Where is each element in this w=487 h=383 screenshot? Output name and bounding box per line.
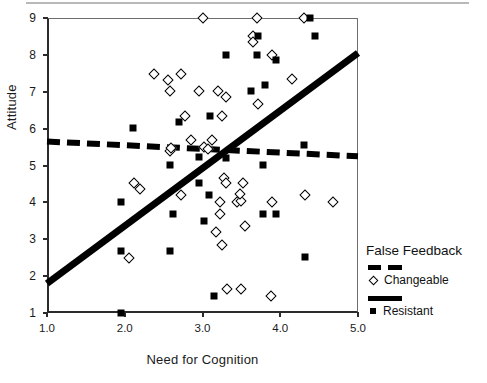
y-tick-label: 9 [29, 12, 36, 24]
data-point-resistant [205, 192, 212, 199]
y-tick-label: 8 [29, 49, 36, 61]
y-tick-mark: 7 [43, 91, 48, 93]
data-point-resistant [195, 154, 202, 161]
data-point-resistant [201, 217, 208, 224]
legend-entry-resistant: Resistant [370, 304, 484, 318]
data-point-resistant [247, 88, 254, 95]
y-tick-label: 3 [29, 233, 36, 245]
y-tick-label: 5 [29, 160, 36, 172]
y-tick-label: 4 [29, 196, 36, 208]
open-diamond-marker-icon [369, 275, 379, 285]
data-point-resistant [117, 310, 124, 317]
data-point-resistant [273, 211, 280, 218]
data-point-resistant [166, 161, 173, 168]
data-point-resistant [176, 118, 183, 125]
data-point-resistant [302, 253, 309, 260]
data-point-resistant [300, 142, 307, 149]
trend-lines-layer [47, 18, 358, 313]
x-tick-label: 1.0 [39, 322, 55, 334]
y-tick-mark: 4 [43, 201, 48, 203]
data-point-resistant [117, 198, 124, 205]
data-point-resistant [253, 51, 260, 58]
y-tick-mark: 6 [43, 128, 48, 130]
legend-group-resistant: Resistant [366, 296, 484, 318]
legend-dashed-line-swatch [368, 265, 402, 270]
figure-container: Attitude Need for Cognition 123456789 1.… [0, 0, 487, 383]
y-tick-label: 6 [29, 123, 36, 135]
y-tick-label: 1 [29, 307, 36, 319]
data-point-resistant [117, 248, 124, 255]
y-tick-label: 2 [29, 270, 36, 282]
data-point-resistant [211, 293, 218, 300]
data-point-resistant [222, 155, 229, 162]
x-tick-label: 5.0 [350, 322, 366, 334]
y-tick-mark: 3 [43, 238, 48, 240]
data-point-resistant [166, 248, 173, 255]
y-tick-mark: 2 [43, 275, 48, 277]
y-tick-mark: 9 [43, 17, 48, 19]
data-point-resistant [195, 180, 202, 187]
x-tick-mark: 3.0 [202, 312, 204, 317]
top-divider-rule [26, 2, 469, 4]
data-point-resistant [222, 51, 229, 58]
legend-label-changeable: Changeable [384, 273, 449, 287]
x-tick-label: 4.0 [272, 322, 288, 334]
x-tick-mark: 1.0 [46, 312, 48, 317]
x-tick-label: 2.0 [117, 322, 133, 334]
plot-area: 123456789 1.02.03.04.05.0 [47, 18, 358, 313]
trend-line-resistant [47, 53, 358, 283]
data-point-resistant [312, 33, 319, 40]
legend-label-resistant: Resistant [383, 304, 433, 318]
legend: False Feedback Changeable Resistant [366, 243, 484, 327]
x-tick-mark: 4.0 [279, 312, 281, 317]
y-tick-mark: 8 [43, 54, 48, 56]
legend-solid-line-swatch [368, 296, 402, 301]
data-point-resistant [169, 211, 176, 218]
data-point-resistant [260, 161, 267, 168]
x-tick-mark: 5.0 [357, 312, 359, 317]
y-tick-label: 7 [29, 86, 36, 98]
data-point-resistant [255, 33, 262, 40]
filled-square-marker-icon [370, 308, 376, 314]
legend-entry-changeable: Changeable [370, 273, 484, 287]
data-point-resistant [261, 82, 268, 89]
data-point-resistant [273, 57, 280, 64]
data-point-resistant [306, 15, 313, 22]
y-axis-title: Attitude [4, 84, 19, 130]
data-point-resistant [207, 112, 214, 119]
legend-group-changeable: Changeable [366, 265, 484, 287]
data-point-resistant [129, 124, 136, 131]
x-tick-label: 3.0 [195, 322, 211, 334]
x-axis-title: Need for Cognition [47, 352, 358, 367]
y-tick-mark: 5 [43, 165, 48, 167]
data-point-resistant [260, 211, 267, 218]
legend-title: False Feedback [366, 243, 484, 258]
